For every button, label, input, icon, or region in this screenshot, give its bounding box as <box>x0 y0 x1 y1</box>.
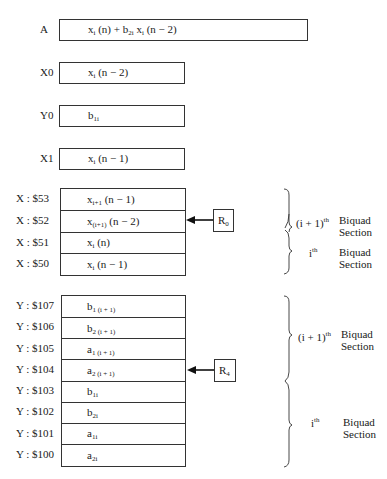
x-address-52: X : $52 <box>16 214 49 226</box>
x-value-53: xi+1 (n − 1) <box>87 193 135 207</box>
register-y0-box: b1i <box>59 105 185 127</box>
y-row-105: a1 (i + 1) <box>62 339 185 360</box>
x-row-53: xi+1 (n − 1) <box>61 189 185 211</box>
y-value-105: a1 (i + 1) <box>87 343 115 357</box>
register-a-value: xi (n) + b2i xi (n − 2) <box>88 23 177 37</box>
y-address-105: Y : $105 <box>16 342 54 354</box>
x-address-53: X : $53 <box>16 192 49 204</box>
y-section-i-section: Section <box>343 428 376 440</box>
y-row-100: a2i <box>62 445 185 467</box>
y-value-102: b2i <box>87 406 98 420</box>
y-row-104: a2 (i + 1) <box>62 360 185 382</box>
x-address-50: X : $50 <box>16 257 49 269</box>
register-x1-label: X1 <box>40 152 53 164</box>
y-section-i-plus-1-label: (i + 1)th <box>298 328 331 343</box>
y-value-106: b2 (i + 1) <box>87 322 115 336</box>
register-x0-box: xi (n − 2) <box>59 62 185 84</box>
x-row-52: x(i+1) (n − 2) <box>61 211 185 233</box>
register-x0-label: X0 <box>40 66 53 78</box>
y-row-106: b2 (i + 1) <box>62 318 185 339</box>
x-row-51: xi (n) <box>61 233 185 254</box>
y-memory-table: b1 (i + 1) b2 (i + 1) a1 (i + 1) a2 (i +… <box>61 295 186 467</box>
y-row-103: b1i <box>62 382 185 403</box>
y-address-103: Y : $103 <box>16 384 54 396</box>
pointer-r0-box: R0 <box>213 209 234 232</box>
x-address-51: X : $51 <box>16 236 49 248</box>
y-row-101: a1i <box>62 424 185 445</box>
pointer-r4-label: R4 <box>219 364 230 378</box>
y-address-106: Y : $106 <box>16 320 54 332</box>
register-y0-label: Y0 <box>40 109 53 121</box>
arrow-r4-icon <box>187 366 196 374</box>
pointer-r4-box: R4 <box>214 359 236 382</box>
register-x1-box: xi (n − 1) <box>59 148 185 170</box>
x-section-i-plus-1-biquad: Biquad <box>339 214 371 226</box>
pointer-r0-label: R0 <box>218 214 229 228</box>
x-value-51: xi (n) <box>87 236 110 250</box>
y-address-101: Y : $101 <box>16 427 54 439</box>
register-x1-value: xi (n − 1) <box>88 152 128 166</box>
y-value-101: a1i <box>87 427 97 441</box>
y-section-i-biquad: Biquad <box>343 416 375 428</box>
y-section-i-label: ith <box>311 414 320 429</box>
x-section-i-biquad: Biquad <box>339 246 371 258</box>
x-memory-table: xi+1 (n − 1) x(i+1) (n − 2) xi (n) xi (n… <box>60 188 186 276</box>
arrow-r0-icon <box>186 216 195 224</box>
x-value-50: xi (n − 1) <box>87 258 127 272</box>
register-a-box: xi (n) + b2i xi (n − 2) <box>59 19 308 41</box>
y-section-i-plus-1-section: Section <box>341 340 374 352</box>
register-y0-value: b1i <box>88 109 99 123</box>
x-section-i-plus-1-label: (i + 1)th <box>296 214 329 229</box>
y-value-104: a2 (i + 1) <box>87 364 115 378</box>
register-a-label: A <box>40 23 48 35</box>
y-value-107: b1 (i + 1) <box>87 300 115 314</box>
y-value-100: a2i <box>87 449 97 463</box>
y-section-i-plus-1-biquad: Biquad <box>341 328 373 340</box>
y-row-107: b1 (i + 1) <box>62 296 185 318</box>
x-section-i-section: Section <box>339 258 372 270</box>
y-address-100: Y : $100 <box>16 448 54 460</box>
y-address-107: Y : $107 <box>16 299 54 311</box>
y-address-104: Y : $104 <box>16 363 54 375</box>
x-value-52: x(i+1) (n − 2) <box>87 215 139 229</box>
register-x0-value: xi (n − 2) <box>88 66 128 80</box>
y-row-102: b2i <box>62 403 185 424</box>
x-row-50: xi (n − 1) <box>61 254 185 276</box>
y-value-103: b1i <box>87 385 98 399</box>
x-section-i-plus-1-section: Section <box>339 226 372 238</box>
x-section-i-label: ith <box>309 244 318 259</box>
y-address-102: Y : $102 <box>16 405 54 417</box>
